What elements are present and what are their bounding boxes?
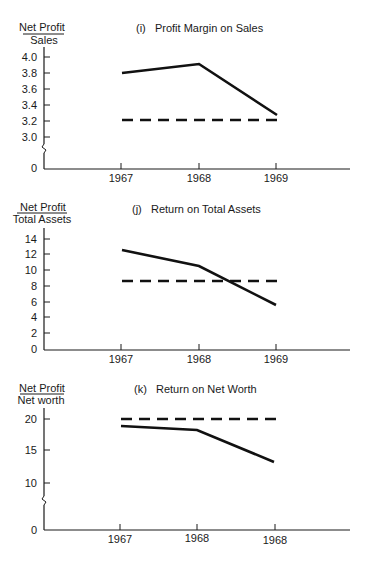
x-tick-label: 1968	[187, 353, 211, 365]
axis-break-icon	[42, 496, 46, 505]
y-tick-label: 4	[31, 311, 37, 323]
y-tick-label: 15	[25, 444, 37, 456]
x-tick-label: 1968	[263, 534, 287, 546]
x-tick-label: 1967	[108, 533, 132, 545]
x-tick-label: 1968	[187, 172, 211, 184]
series-firm-solid	[122, 250, 276, 305]
x-tick-label: 1968	[185, 532, 209, 544]
chart-title: (i) Profit Margin on Sales	[136, 22, 264, 34]
chart-return-on-net-worth: Net Profit Net worth (k) Return on Net W…	[0, 370, 376, 562]
x-tick-label: 1967	[109, 172, 133, 184]
chart-i-canvas: Net Profit Sales (i) Profit Margin on Sa…	[0, 0, 376, 190]
y-tick-label: 4.0	[22, 51, 37, 63]
axis-break-icon	[42, 144, 46, 153]
y-tick-label: 2	[31, 327, 37, 339]
y-tick-label: 3.8	[22, 67, 37, 79]
y-tick-label: 6	[31, 296, 37, 308]
y-tick-label: 0	[31, 343, 37, 355]
y-tick-label: 12	[25, 248, 37, 260]
ylabel-numerator: Net Profit	[20, 201, 66, 213]
y-tick-label: 10	[25, 264, 37, 276]
y-tick-label: 3.0	[22, 131, 37, 143]
y-tick-label: 10	[25, 477, 37, 489]
ylabel-denominator: Total Assets	[13, 213, 72, 225]
ylabel-numerator: Net Profit	[19, 382, 65, 394]
chart-title: (k) Return on Net Worth	[134, 383, 257, 395]
chart-return-on-total-assets: Net Profit Total Assets (j) Return on To…	[0, 190, 376, 370]
x-tick-label: 1969	[264, 172, 288, 184]
chart-k-canvas: Net Profit Net worth (k) Return on Net W…	[0, 370, 376, 562]
y-tick-label: 3.2	[22, 115, 37, 127]
x-tick-label: 1967	[109, 353, 133, 365]
y-tick-label: 20	[25, 413, 37, 425]
ylabel-denominator: Net worth	[17, 394, 64, 406]
x-tick-label: 1969	[264, 353, 288, 365]
chart-j-canvas: Net Profit Total Assets (j) Return on To…	[0, 190, 376, 370]
y-tick-label: 3.4	[22, 99, 37, 111]
series-firm-solid	[122, 64, 277, 115]
chart-profit-margin-on-sales: Net Profit Sales (i) Profit Margin on Sa…	[0, 0, 376, 190]
chart-title: (j) Return on Total Assets	[132, 203, 261, 215]
ylabel-numerator: Net Profit	[19, 21, 65, 33]
ylabel-denominator: Sales	[30, 34, 58, 46]
series-firm-solid	[121, 426, 274, 462]
y-tick-label: 0	[31, 524, 37, 536]
y-tick-label: 8	[31, 280, 37, 292]
y-tick-label: 3.6	[22, 83, 37, 95]
y-tick-label: 14	[25, 233, 37, 245]
y-tick-label: 0	[31, 162, 37, 174]
